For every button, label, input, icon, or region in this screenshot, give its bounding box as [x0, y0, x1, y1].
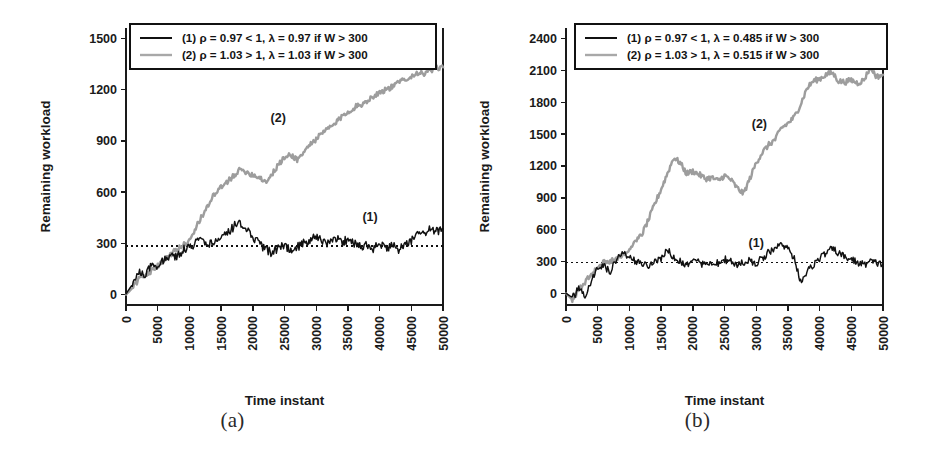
y-tick-label: 1200 — [529, 159, 557, 173]
y-tick-label: 0 — [550, 287, 557, 301]
x-tick-label: 25000 — [718, 316, 732, 351]
y-tick-label: 900 — [536, 191, 557, 205]
series-2-path — [566, 67, 883, 302]
chart-b-svg: 0300600900120015001800210024000500010000… — [465, 0, 930, 410]
x-tick-label: 40000 — [813, 316, 827, 351]
curve-annotation: (1) — [749, 236, 764, 250]
legend-label: (2) ρ = 1.03 > 1, λ = 0.515 if W > 300 — [627, 48, 819, 61]
legend-label: (2) ρ = 1.03 > 1, λ = 1.03 if W > 300 — [182, 48, 368, 61]
y-axis-title: Remaining workload — [477, 100, 492, 232]
panel-a: 0300600900120015000500010000150002000025… — [0, 0, 465, 470]
curve-annotation: (1) — [362, 210, 377, 224]
x-tick-label: 35000 — [341, 316, 355, 351]
chart-a-svg: 0300600900120015000500010000150002000025… — [0, 0, 465, 410]
x-tick-label: 15000 — [655, 316, 669, 351]
series-1-path — [566, 243, 883, 298]
chart-a: 0300600900120015000500010000150002000025… — [0, 0, 465, 410]
x-tick-label: 5000 — [151, 316, 165, 344]
y-tick-label: 600 — [96, 186, 117, 200]
x-tick-label: 45000 — [405, 316, 419, 351]
curve-annotation: (2) — [752, 117, 767, 131]
figure-container: 0300600900120015000500010000150002000025… — [0, 0, 930, 470]
series-2-path — [126, 65, 443, 294]
y-tick-label: 300 — [96, 237, 117, 251]
panel-b: 0300600900120015001800210024000500010000… — [465, 0, 930, 470]
x-tick-label: 45000 — [845, 316, 859, 351]
chart-b: 0300600900120015001800210024000500010000… — [465, 0, 930, 410]
x-tick-label: 40000 — [373, 316, 387, 351]
y-tick-label: 2400 — [529, 32, 557, 46]
x-tick-label: 0 — [560, 316, 574, 323]
x-tick-label: 50000 — [437, 316, 451, 351]
x-tick-label: 10000 — [623, 316, 637, 351]
x-tick-label: 20000 — [246, 316, 260, 351]
y-tick-label: 1500 — [89, 32, 117, 46]
y-tick-label: 300 — [536, 255, 557, 269]
x-tick-label: 5000 — [591, 316, 605, 344]
x-tick-label: 35000 — [781, 316, 795, 351]
y-tick-label: 600 — [536, 223, 557, 237]
y-tick-label: 2100 — [529, 64, 557, 78]
y-tick-label: 1800 — [529, 96, 557, 110]
x-tick-label: 20000 — [686, 316, 700, 351]
caption-b: (b) — [465, 408, 930, 433]
caption-a: (a) — [0, 408, 465, 433]
x-tick-label: 25000 — [278, 316, 292, 351]
x-tick-label: 10000 — [183, 316, 197, 351]
legend-label: (1) ρ = 0.97 < 1, λ = 0.485 if W > 300 — [627, 31, 819, 44]
x-tick-label: 30000 — [750, 316, 764, 351]
legend-label: (1) ρ = 0.97 < 1, λ = 0.97 if W > 300 — [182, 31, 368, 44]
y-tick-label: 900 — [96, 134, 117, 148]
y-axis-title: Remaining workload — [38, 100, 53, 232]
x-tick-label: 15000 — [215, 316, 229, 351]
x-tick-label: 0 — [120, 316, 134, 323]
series-1-path — [126, 220, 443, 294]
x-tick-label: 30000 — [310, 316, 324, 351]
x-axis-title: Time instant — [245, 393, 325, 408]
curve-annotation: (2) — [271, 111, 286, 125]
x-axis-title: Time instant — [685, 393, 765, 408]
x-tick-label: 50000 — [877, 316, 891, 351]
y-tick-label: 0 — [110, 288, 117, 302]
y-tick-label: 1200 — [89, 83, 117, 97]
y-tick-label: 1500 — [529, 128, 557, 142]
